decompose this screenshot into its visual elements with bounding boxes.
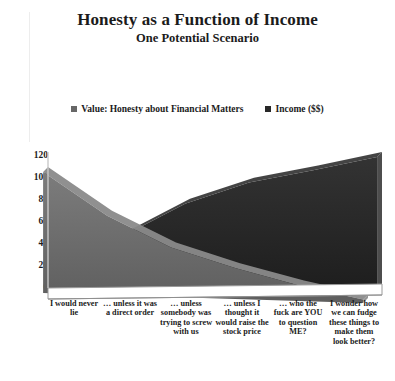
y-tick-100: 100	[34, 172, 48, 182]
x-category-2: … unless somebody was trying to screw wi…	[158, 299, 214, 377]
x-category-5: I wonder how we can fudge these things t…	[326, 299, 382, 377]
area-depth-wall-income	[377, 152, 382, 289]
y-tick-80: 80	[39, 194, 49, 204]
x-category-4: … who the fuck are YOU to question ME?	[270, 299, 326, 377]
x-axis-labels: I would never lie … unless it was a dire…	[46, 299, 382, 377]
x-category-0: I would never lie	[46, 299, 102, 377]
legend-item-income[interactable]: Income ($$)	[265, 104, 323, 114]
chart-legend: Value: Honesty about Financial Matters I…	[0, 104, 395, 114]
legend-label-honesty: Value: Honesty about Financial Matters	[81, 104, 243, 114]
x-category-3: … unless I thought it would raise the st…	[214, 299, 270, 377]
chart-container: Honesty as a Function of Income One Pote…	[0, 0, 395, 381]
y-tick-60: 60	[39, 216, 49, 226]
square-marker-icon	[71, 106, 77, 112]
y-tick-40: 40	[39, 238, 49, 248]
y-tick-120: 120	[34, 150, 48, 160]
area-top-ribbon-honesty	[43, 167, 368, 300]
chart-title: Honesty as a Function of Income	[0, 10, 395, 30]
square-marker-icon	[265, 106, 271, 112]
y-tick-0: 0	[43, 282, 48, 292]
area-series-income	[57, 157, 377, 289]
x-category-1: … unless it was a direct order	[102, 299, 158, 377]
y-tick-20: 20	[39, 260, 49, 270]
y-axis-labels: 120 100 80 60 40 20 0	[18, 150, 48, 296]
title-block: Honesty as a Function of Income One Pote…	[0, 10, 395, 46]
floor-plane	[48, 284, 382, 299]
legend-item-honesty[interactable]: Value: Honesty about Financial Matters	[71, 104, 243, 114]
area-top-ribbon-income	[57, 152, 382, 259]
area-series-honesty	[43, 172, 363, 303]
chart-subtitle: One Potential Scenario	[0, 31, 395, 46]
legend-label-income: Income ($$)	[275, 104, 323, 114]
